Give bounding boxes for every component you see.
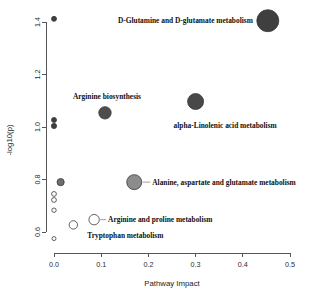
point-label: Alanine, aspartate and glutamate metabol…	[152, 178, 296, 187]
point-labels: D-Glutamine and D-glutamate metabolismal…	[73, 16, 297, 240]
data-point	[52, 16, 57, 21]
point-label: Arginine and proline metabolism	[108, 215, 213, 224]
data-point-labeled	[69, 221, 77, 229]
point-label: Tryptophan metabolism	[87, 231, 164, 240]
x-tick-label: 0.2	[143, 260, 153, 269]
x-tick-label: 0.3	[191, 260, 201, 269]
x-tick-label: 0.0	[49, 260, 59, 269]
data-point	[52, 117, 57, 122]
label-leader-lines	[100, 182, 150, 220]
x-axis-title: Pathway Impact	[144, 279, 200, 288]
data-point-labeled	[99, 107, 111, 119]
y-axis: 0.60.81.01.21.4	[33, 17, 46, 237]
data-point	[51, 123, 56, 128]
y-tick-label: 1.0	[33, 122, 42, 132]
data-point-labeled	[257, 10, 279, 32]
y-tick-label: 1.4	[33, 17, 42, 27]
point-label: D-Glutamine and D-glutamate metabolism	[118, 16, 254, 25]
data-point	[57, 179, 64, 186]
y-tick-label: 1.2	[33, 70, 42, 80]
x-tick-label: 0.5	[285, 260, 295, 269]
data-point	[52, 208, 56, 212]
data-point-labeled	[89, 214, 99, 224]
x-tick-label: 0.1	[96, 260, 106, 269]
y-axis-title: -log10(p)	[5, 124, 14, 156]
x-tick-label: 0.4	[238, 260, 248, 269]
data-point	[52, 192, 57, 197]
data-point-labeled	[127, 175, 142, 190]
data-point	[52, 237, 56, 241]
data-point-labeled	[188, 94, 204, 110]
data-point	[52, 198, 57, 203]
y-tick-label: 0.6	[33, 227, 42, 237]
y-tick-label: 0.8	[33, 175, 42, 185]
point-label: alpha-Linolenic acid metabolism	[174, 121, 278, 130]
scatter-plot-figure: 0.60.81.01.21.4 0.00.10.20.30.40.5 D-Glu…	[0, 0, 313, 293]
point-label: Arginine biosynthesis	[73, 92, 141, 101]
x-axis: 0.00.10.20.30.40.5	[49, 253, 295, 269]
plot-canvas: 0.60.81.01.21.4 0.00.10.20.30.40.5 D-Glu…	[0, 0, 313, 293]
